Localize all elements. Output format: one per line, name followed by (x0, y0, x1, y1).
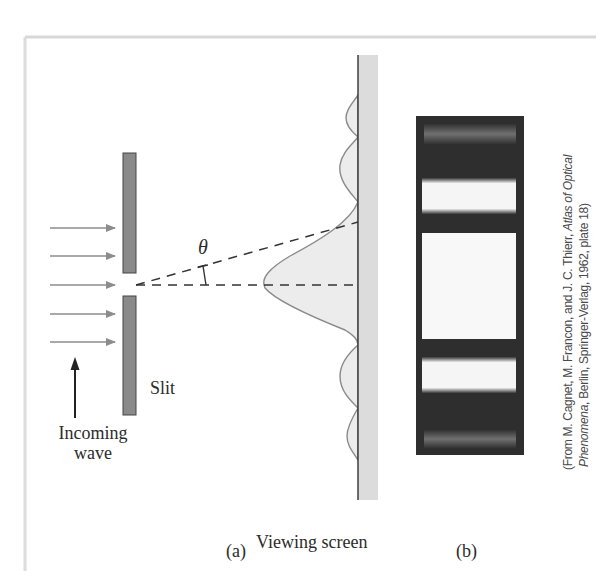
diffraction-photograph (416, 116, 524, 455)
slit-barrier (123, 153, 136, 415)
theta-angle-marker (198, 265, 208, 285)
incoming-wave-label: Incoming wave (48, 423, 138, 463)
secondary-fringe-upper (422, 178, 516, 214)
figure-single-slit-diffraction: θ Slit Incoming wave Viewing screen (a) … (0, 0, 596, 571)
theta-label: θ (198, 236, 208, 259)
incident-wave-arrows (50, 228, 115, 342)
viewing-screen-label: Viewing screen (256, 532, 367, 553)
viewing-screen (358, 55, 378, 500)
diagram-canvas (0, 0, 596, 571)
faint-fringe-top (424, 124, 516, 144)
incoming-wave-label-line1: Incoming (48, 423, 138, 443)
panel-a-caption: (a) (226, 541, 246, 562)
central-bright-fringe (422, 233, 516, 339)
slit-label: Slit (150, 378, 175, 399)
credit-line-1: (From M. Cagnet, M. Francon, and J. C. T… (560, 155, 576, 470)
upper-slit-plate (123, 153, 136, 273)
credit-line-2: Phenomena, Berlin, Springer-Verlag, 1962… (576, 155, 592, 470)
incoming-wave-pointer-arrow-icon (71, 357, 80, 418)
photo-credit: (From M. Cagnet, M. Francon, and J. C. T… (560, 155, 592, 470)
lower-slit-plate (123, 296, 136, 415)
incoming-wave-label-line2: wave (48, 443, 138, 463)
intensity-profile (264, 95, 358, 460)
faint-fringe-bottom (424, 430, 516, 448)
panel-b-caption: (b) (456, 541, 477, 562)
secondary-fringe-lower (422, 357, 516, 393)
diffraction-curve (264, 95, 358, 460)
